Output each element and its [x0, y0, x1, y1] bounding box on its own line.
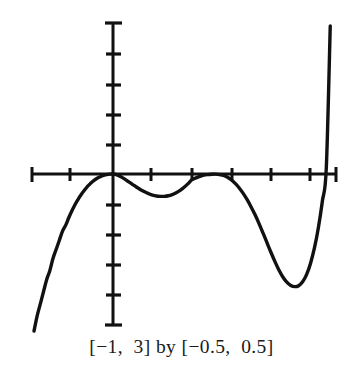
- function-curve: [34, 26, 330, 331]
- window-caption: [−1, 3] by [−0.5, 0.5]: [0, 336, 363, 358]
- graph-figure: [−1, 3] by [−0.5, 0.5]: [0, 0, 363, 372]
- plot-svg: [0, 0, 363, 340]
- plot-area: [0, 0, 363, 340]
